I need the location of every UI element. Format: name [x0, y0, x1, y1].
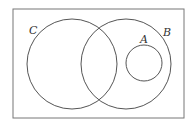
- venn-diagram: C B A: [0, 0, 189, 129]
- set-a-circle: [126, 45, 162, 81]
- set-c-label: C: [29, 24, 38, 37]
- universe-rectangle: [13, 9, 184, 118]
- set-a-label: A: [139, 33, 148, 46]
- set-c-circle: [27, 19, 117, 109]
- set-b-label: B: [162, 26, 171, 39]
